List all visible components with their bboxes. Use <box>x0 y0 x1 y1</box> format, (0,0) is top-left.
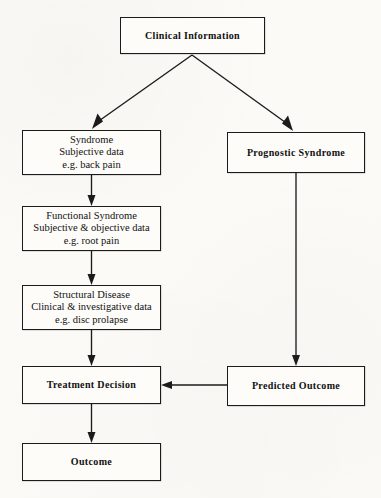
edge-predicted-to-treatment <box>161 381 227 389</box>
node-structural-disease[interactable]: Structural Disease Clinical & investigat… <box>22 285 161 330</box>
node-syndrome[interactable]: Syndrome Subjective data e.g. back pain <box>22 130 161 175</box>
node-line: Functional Syndrome <box>46 210 137 222</box>
node-line: Predicted Outcome <box>252 380 340 392</box>
edge-syndrome-to-functional <box>88 175 96 206</box>
node-functional-syndrome[interactable]: Functional Syndrome Subjective & objecti… <box>22 206 161 251</box>
node-line: Treatment Decision <box>47 379 137 391</box>
node-line: Structural Disease <box>53 289 130 301</box>
node-outcome[interactable]: Outcome <box>22 443 161 481</box>
edge-clinical-to-syndrome <box>92 55 192 129</box>
node-line: Subjective data <box>59 146 123 158</box>
node-treatment-decision[interactable]: Treatment Decision <box>22 366 161 404</box>
node-line: e.g. back pain <box>62 159 120 171</box>
node-line: Subjective & objective data <box>33 222 149 234</box>
node-line: Outcome <box>71 456 112 468</box>
edge-treatment-to-outcome <box>88 404 96 443</box>
node-line: Clinical & investigative data <box>31 301 151 313</box>
node-line: Clinical Information <box>145 30 240 42</box>
node-clinical-information[interactable]: Clinical Information <box>120 17 265 54</box>
node-prognostic-syndrome[interactable]: Prognostic Syndrome <box>227 132 365 173</box>
edge-functional-to-structural <box>88 251 96 285</box>
node-line: e.g. disc prolapse <box>55 314 128 326</box>
edge-clinical-to-prognostic <box>192 55 293 131</box>
flowchart-canvas: Clinical Information Syndrome Subjective… <box>0 0 381 498</box>
edge-structural-to-treatment <box>88 330 96 366</box>
edge-prognostic-to-predicted <box>292 173 300 366</box>
node-line: e.g. root pain <box>64 235 119 247</box>
node-predicted-outcome[interactable]: Predicted Outcome <box>227 366 365 406</box>
node-line: Syndrome <box>70 134 113 146</box>
node-line: Prognostic Syndrome <box>247 147 345 159</box>
